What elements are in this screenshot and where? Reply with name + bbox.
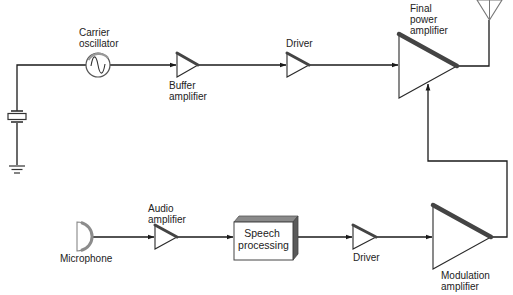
driver-bottom-amplifier [353, 225, 376, 249]
label-modulation-amplifier: Modulation amplifier [441, 270, 493, 292]
wire-crystal-ground [17, 65, 86, 165]
label-driver-top: Driver [286, 38, 313, 49]
wire-final-to-antenna [457, 20, 489, 66]
label-carrier-oscillator: Carrier oscillator [79, 27, 119, 49]
label-speech-processing: Speech processing [238, 227, 289, 251]
driver-top-amplifier [287, 53, 309, 77]
label-final-power-amplifier: Final power amplifier [410, 3, 448, 36]
label-microphone: Microphone [60, 253, 113, 264]
antenna-icon [477, 0, 502, 20]
microphone-icon [77, 222, 92, 251]
crystal-icon [8, 111, 26, 122]
modulation-amplifier [433, 205, 491, 269]
label-driver-bottom: Driver [353, 252, 380, 263]
transmitter-diagram: Carrier oscillator Buffer amplifier Driv… [0, 0, 513, 295]
label-audio-amplifier: Audio amplifier [148, 203, 186, 225]
carrier-oscillator [86, 53, 110, 77]
buffer-amplifier [177, 53, 198, 77]
ground-icon [9, 166, 25, 173]
audio-amplifier [155, 225, 177, 249]
label-buffer-amplifier: Buffer amplifier [169, 80, 207, 102]
